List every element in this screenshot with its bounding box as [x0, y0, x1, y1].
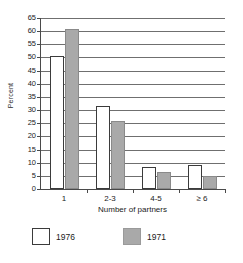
- y-tick-mark: [37, 123, 40, 124]
- y-tick-mark: [37, 84, 40, 85]
- y-tick-label: 40: [28, 80, 36, 88]
- bar-1976-6: [188, 165, 202, 189]
- bar-1971-2-3: [111, 121, 125, 189]
- x-tick-mark: [87, 189, 88, 193]
- y-tick-label: 5: [32, 172, 36, 180]
- x-axis-title: Number of partners: [40, 205, 225, 214]
- x-tick-mark: [179, 189, 180, 193]
- bars-group: [41, 18, 225, 189]
- y-axis-title: Percent: [7, 66, 14, 126]
- y-tick-mark: [37, 71, 40, 72]
- bar-1971-1: [65, 29, 79, 189]
- bar-1976-2-3: [96, 106, 110, 189]
- y-tick-mark: [37, 97, 40, 98]
- y-tick-mark: [37, 176, 40, 177]
- x-tick-label: 4-5: [150, 194, 162, 203]
- x-tick-mark: [225, 189, 226, 193]
- bar-1971-4-5: [157, 172, 171, 189]
- y-tick-mark: [37, 136, 40, 137]
- legend: 1976 1971: [30, 228, 220, 252]
- legend-swatch-icon-1976: [32, 228, 50, 245]
- y-tick-label: 15: [28, 146, 36, 154]
- y-tick-mark: [37, 18, 40, 19]
- y-tick-mark: [37, 189, 40, 190]
- y-tick-mark: [37, 44, 40, 45]
- y-tick-mark: [37, 110, 40, 111]
- bar-chart: Percent 05101520253035404550556065 12-34…: [0, 0, 243, 263]
- y-tick-label: 65: [28, 14, 36, 22]
- legend-label-1971: 1971: [147, 232, 166, 242]
- y-tick-label: 10: [28, 159, 36, 167]
- plot-area: 05101520253035404550556065 12-34-5≥ 6: [40, 18, 225, 190]
- y-tick-label: 35: [28, 93, 36, 101]
- y-tick-mark: [37, 57, 40, 58]
- legend-item-1971: 1971: [123, 228, 166, 245]
- y-tick-label: 0: [32, 185, 36, 193]
- y-tick-label: 45: [28, 67, 36, 75]
- legend-label-1976: 1976: [56, 232, 75, 242]
- bar-1971-6: [203, 176, 217, 189]
- y-tick-label: 20: [28, 133, 36, 141]
- y-tick-label: 60: [28, 27, 36, 35]
- x-tick-label: 1: [62, 194, 66, 203]
- x-tick-label: ≥ 6: [196, 194, 207, 203]
- legend-swatch-icon-1971: [123, 228, 141, 245]
- y-tick-label: 25: [28, 119, 36, 127]
- y-tick-mark: [37, 31, 40, 32]
- legend-item-1976: 1976: [32, 228, 75, 245]
- x-tick-label: 2-3: [104, 194, 116, 203]
- y-tick-label: 50: [28, 54, 36, 62]
- y-tick-mark: [37, 150, 40, 151]
- y-tick-label: 30: [28, 106, 36, 114]
- x-tick-mark: [133, 189, 134, 193]
- y-tick-mark: [37, 163, 40, 164]
- bar-1976-4-5: [142, 167, 156, 189]
- y-tick-label: 55: [28, 41, 36, 49]
- bar-1976-1: [50, 56, 64, 189]
